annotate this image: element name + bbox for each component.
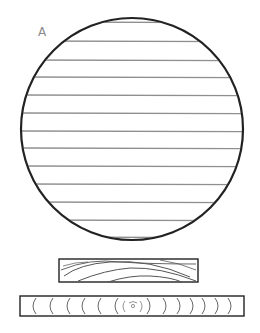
end-grain-strip [20, 296, 244, 316]
saw-cut-line [15, 95, 250, 96]
strip-outline [20, 296, 244, 316]
saw-cut-line [15, 184, 250, 185]
saw-cut-line [15, 22, 250, 23]
saw-cut-line [15, 41, 250, 42]
diagram-canvas [0, 0, 260, 333]
flat-sawn-board [59, 259, 198, 282]
saw-cut-line [15, 166, 250, 167]
saw-cut-line [15, 113, 250, 114]
saw-cut-line [15, 220, 250, 221]
saw-cut-line [15, 60, 250, 61]
wood-cut-diagram: A [0, 0, 260, 333]
log-cross-section [15, 18, 250, 240]
saw-cut-line [15, 131, 250, 132]
figure-label: A [38, 26, 46, 38]
log-outline [21, 18, 243, 240]
saw-cut-line [15, 148, 250, 149]
saw-cut-line [15, 237, 250, 238]
saw-cut-line [15, 77, 250, 78]
